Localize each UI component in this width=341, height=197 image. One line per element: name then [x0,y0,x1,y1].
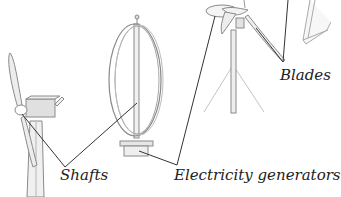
leader-lines [22,0,288,167]
shafts-label: Shafts [60,168,108,183]
small-tripod-turbine [204,0,285,113]
partial-turbine-right [303,0,331,44]
blades-label: Blades [280,68,331,83]
electricity-generators-label: Electricity generators [174,168,341,183]
vertical-axis-turbine [109,15,163,156]
horizontal-turbine-left [9,53,64,197]
